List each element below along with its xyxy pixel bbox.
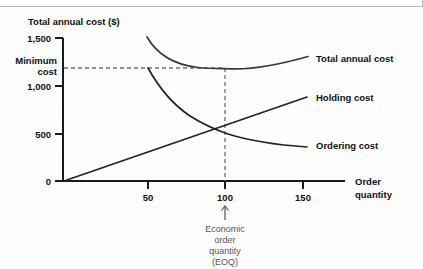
chart-canvas: Total annual cost ($) 1,500 1,000 500 0 …: [0, 0, 423, 269]
series-label-total-annual-cost: Total annual cost: [316, 53, 394, 64]
x-tick-label-150: 150: [295, 192, 311, 203]
series-label-ordering-cost: Ordering cost: [316, 140, 379, 151]
y-tick-label-1000: 1,000: [27, 81, 51, 92]
eoq-caption-line3: quantity: [209, 246, 241, 256]
y-tick-label-1500: 1,500: [27, 33, 51, 44]
minimum-cost-label-line1: Minimum: [15, 55, 57, 66]
y-tick-label-500: 500: [35, 129, 51, 140]
x-axis-title-line2: quantity: [355, 189, 393, 200]
total-annual-cost-curve: [147, 37, 308, 69]
holding-cost-line: [64, 97, 307, 181]
x-axis-title-line1: Order: [355, 176, 381, 187]
series-label-holding-cost: Holding cost: [316, 92, 374, 103]
eoq-cost-chart: Total annual cost ($) 1,500 1,000 500 0 …: [0, 0, 423, 269]
x-tick-label-50: 50: [143, 192, 154, 203]
ordering-cost-curve: [148, 68, 307, 147]
eoq-caption-line1: Economic: [205, 224, 245, 234]
eoq-caption-line4: (EOQ): [212, 257, 238, 267]
y-tick-label-0: 0: [46, 176, 51, 187]
minimum-cost-label-line2: cost: [37, 66, 57, 77]
x-tick-label-100: 100: [217, 192, 233, 203]
y-axis-title: Total annual cost ($): [28, 16, 120, 27]
eoq-caption-line2: order: [214, 235, 235, 245]
